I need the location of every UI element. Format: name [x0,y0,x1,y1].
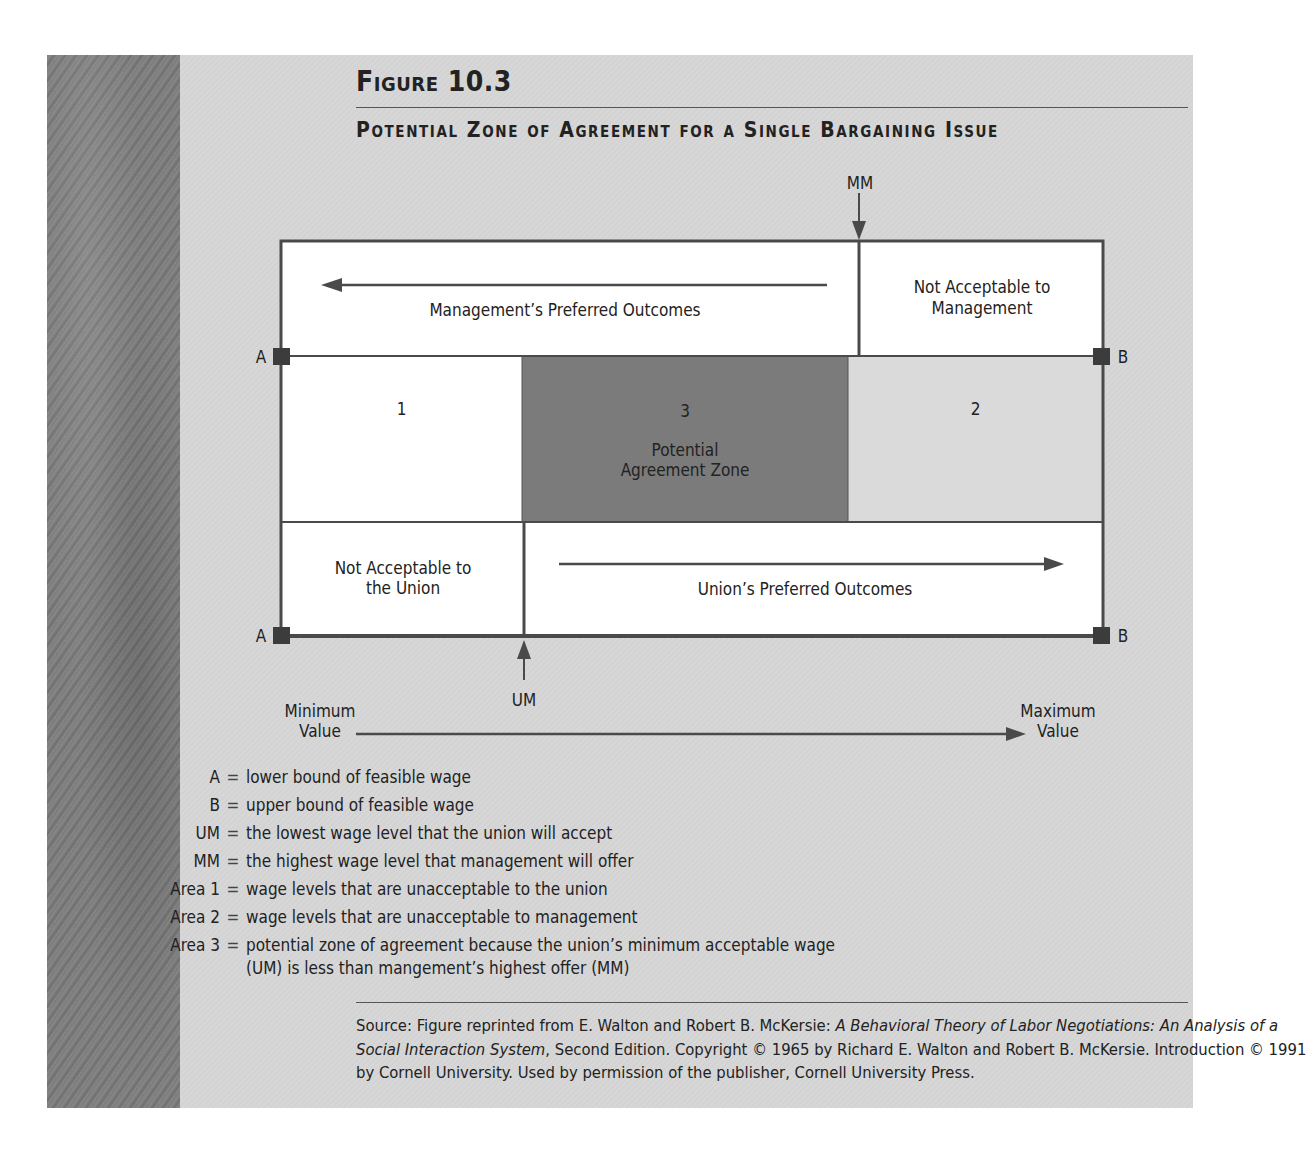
area3-fill [522,356,848,522]
diagram: MM UM A B A B Management’s Preferred Out… [180,55,1193,775]
axis-min-line1: Minimum [260,701,380,722]
not-acceptable-union-line2: the Union [283,578,523,599]
a-bottom-label: A [252,626,270,647]
figure-card: Figure 10.3 Potential Zone of Agreement … [47,55,1193,1108]
marker-a-bottom [273,627,290,644]
legend-item: Area 1=wage levels that are unacceptable… [135,878,608,900]
marker-b-bottom [1093,627,1110,644]
union-preferred-label: Union’s Preferred Outcomes [560,579,1050,600]
area3-line1: Potential [522,440,848,461]
not-acceptable-mgmt-line1: Not Acceptable to [862,277,1102,298]
legend-item: Area 2=wage levels that are unacceptable… [135,906,638,928]
source-citation: Source: Figure reprinted from E. Walton … [356,1014,1310,1085]
axis-max-line2: Value [998,721,1118,742]
area2-fill [848,356,1103,522]
legend-item: A=lower bound of feasible wage [135,766,471,788]
legend-item: MM=the highest wage level that managemen… [135,850,634,872]
management-preferred-label: Management’s Preferred Outcomes [320,300,810,321]
area2-label: 2 [848,399,1103,420]
um-label: UM [506,690,542,711]
a-top-label: A [252,347,270,368]
not-acceptable-mgmt-line2: Management [862,298,1102,319]
legend-item: B=upper bound of feasible wage [135,794,474,816]
area1-fill [281,356,522,522]
area1-label: 1 [281,399,522,420]
marker-b-top [1093,348,1110,365]
legend: A=lower bound of feasible wage B=upper b… [135,766,1035,986]
b-top-label: B [1114,347,1132,368]
figure-panel: Figure 10.3 Potential Zone of Agreement … [180,55,1193,1108]
source-divider [356,1002,1188,1003]
marker-a-top [273,348,290,365]
area3-number: 3 [522,401,848,422]
legend-item: UM=the lowest wage level that the union … [135,822,612,844]
mm-label: MM [842,173,878,194]
legend-item-continuation: (UM) is less than mangement’s highest of… [246,957,629,979]
legend-item: Area 3=potential zone of agreement becau… [135,934,835,956]
axis-max-line1: Maximum [998,701,1118,722]
not-acceptable-union-line1: Not Acceptable to [283,558,523,579]
axis-min-line2: Value [260,721,380,742]
b-bottom-label: B [1114,626,1132,647]
area3-line2: Agreement Zone [522,460,848,481]
